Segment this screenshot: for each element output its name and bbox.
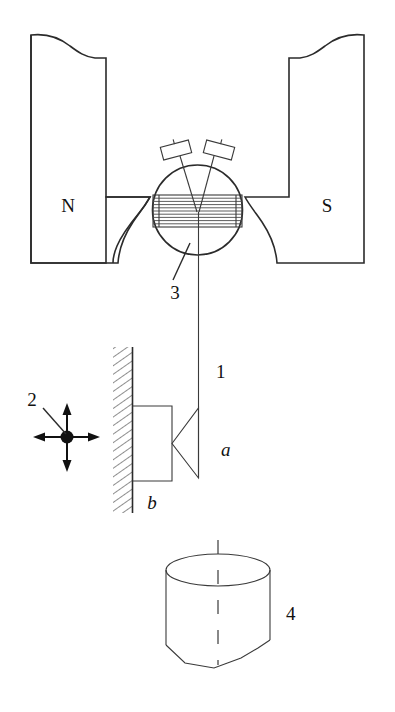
magnet-left-limb: N	[31, 35, 150, 263]
coil-winding	[153, 195, 242, 227]
wall-hatching	[113, 347, 132, 513]
cylindrical-vessel: 4	[166, 540, 296, 668]
block-b-outline	[133, 406, 173, 481]
arrow-head-right	[88, 433, 100, 442]
part-b-label: b	[147, 492, 157, 513]
rotor-circle	[153, 165, 243, 255]
callout-1-label: 1	[216, 361, 226, 382]
rotor-paddle-right	[203, 139, 234, 160]
north-pole-label: N	[61, 195, 75, 216]
coil-hatch-lines	[153, 198, 242, 224]
arrow-head-up	[63, 403, 72, 415]
south-pole-label: S	[322, 195, 333, 216]
part-a-label: a	[221, 439, 231, 460]
callout-2-label: 2	[27, 389, 37, 410]
rotor-paddle-left	[160, 139, 191, 160]
wall-assembly: b a	[113, 347, 231, 513]
magnet-left-outline	[31, 35, 150, 263]
arrow-head-down	[63, 460, 72, 472]
wedge-a-outline	[172, 408, 199, 478]
pivot-dot	[61, 431, 74, 444]
figure-root: N S	[0, 0, 395, 712]
four-way-motion-indicator: 2	[27, 389, 100, 472]
magnet-left-body	[31, 35, 150, 263]
wall-block-b: b	[133, 406, 173, 513]
wedge-a: a	[172, 408, 231, 478]
diagram-canvas: N S	[0, 0, 395, 712]
rotor-assembly: 3	[153, 139, 243, 303]
callout-2-leader	[43, 408, 66, 434]
callout-3-label: 3	[170, 282, 180, 303]
callout-4-label: 4	[286, 603, 296, 624]
magnet-right-body	[245, 35, 364, 263]
arrow-head-left	[33, 433, 45, 442]
magnet-right-limb: S	[245, 35, 364, 263]
